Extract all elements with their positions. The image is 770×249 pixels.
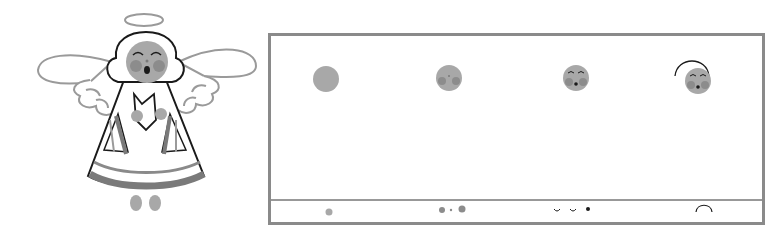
left-wing-icon bbox=[38, 55, 116, 115]
steps-panel bbox=[268, 33, 765, 225]
right-wing-icon bbox=[178, 50, 256, 113]
left-cheek-icon bbox=[130, 60, 142, 72]
step-3-hint-icon bbox=[554, 207, 590, 211]
left-hand-icon bbox=[131, 110, 143, 122]
left-foot-icon bbox=[130, 195, 142, 211]
right-hand-icon bbox=[155, 108, 167, 120]
step-1-face-icon bbox=[313, 66, 339, 92]
right-cheek-icon bbox=[153, 60, 165, 72]
angel-illustration bbox=[0, 0, 260, 249]
dress-icon bbox=[88, 80, 204, 187]
step-3-face-icon bbox=[563, 65, 589, 91]
step-1-hint-icon bbox=[326, 209, 333, 216]
step-4-face-icon bbox=[675, 61, 711, 94]
right-foot-icon bbox=[149, 195, 161, 211]
step-2-face-icon bbox=[436, 65, 462, 91]
mouth-icon bbox=[144, 66, 150, 74]
step-4-hint-icon bbox=[696, 205, 712, 212]
step-2-hint-icon bbox=[439, 206, 466, 214]
halo-icon bbox=[125, 14, 163, 26]
nose-icon bbox=[146, 60, 149, 63]
